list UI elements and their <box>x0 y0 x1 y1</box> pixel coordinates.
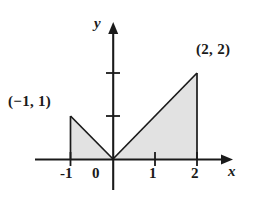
point-label-right: (2, 2) <box>196 42 230 57</box>
y-axis-label: y <box>94 16 101 31</box>
x-tick-label-two: 2 <box>191 166 199 181</box>
y-axis-arrowhead <box>108 22 118 34</box>
x-axis-label: x <box>228 164 236 179</box>
point-label-left: (−1, 1) <box>8 94 51 109</box>
x-tick-label-zero: 0 <box>92 166 100 181</box>
math-figure: (−1, 1) (2, 2) -1 0 1 2 y x <box>0 0 260 214</box>
x-tick-label-one: 1 <box>149 166 157 181</box>
x-tick-label-neg1: -1 <box>60 166 73 181</box>
